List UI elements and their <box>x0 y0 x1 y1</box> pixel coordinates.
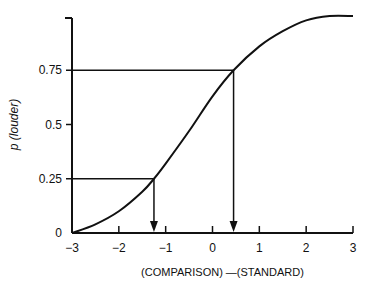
x-tick-label: −3 <box>65 241 79 255</box>
down-arrow-icon <box>150 221 158 232</box>
y-tick-label: 0.75 <box>39 63 63 77</box>
x-ticks: −3−2−10123 <box>65 226 357 255</box>
x-tick-label: −2 <box>112 241 126 255</box>
x-tick-label: 1 <box>256 241 263 255</box>
series-line <box>72 16 353 233</box>
chart: −3−2−10123 00.250.50.75 (COMPARISON) —(S… <box>0 0 366 286</box>
axes <box>65 18 353 233</box>
y-tick-label: 0.25 <box>39 172 63 186</box>
y-tick-label: 0.5 <box>45 118 62 132</box>
y-axis-label: p (louder) <box>7 99 21 151</box>
x-tick-label: 3 <box>350 241 357 255</box>
x-tick-label: 0 <box>209 241 216 255</box>
down-arrow-icon <box>230 221 238 232</box>
x-axis-label: (COMPARISON) —(STANDARD) <box>141 266 304 278</box>
y-tick-label: 0 <box>55 226 62 240</box>
x-tick-label: 2 <box>303 241 310 255</box>
y-ticks: 00.250.50.75 <box>39 63 72 240</box>
x-tick-label: −1 <box>159 241 173 255</box>
